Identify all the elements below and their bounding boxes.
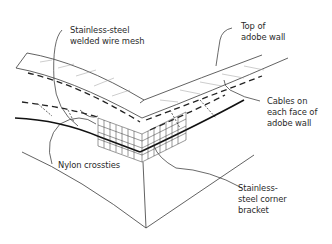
label-corner-bracket: Stainless- steel corner bracket — [238, 183, 287, 216]
wall-body — [22, 152, 254, 228]
label-cables: Cables on each face of adobe wall — [267, 96, 317, 129]
label-mesh: Stainless-steel welded wire mesh — [70, 25, 144, 47]
label-top-of-wall: Top of adobe wall — [241, 21, 285, 43]
label-nylon-crossties: Nylon crossties — [58, 160, 120, 171]
wall-top-surface — [16, 53, 288, 118]
wall-top-hatching — [40, 60, 264, 102]
